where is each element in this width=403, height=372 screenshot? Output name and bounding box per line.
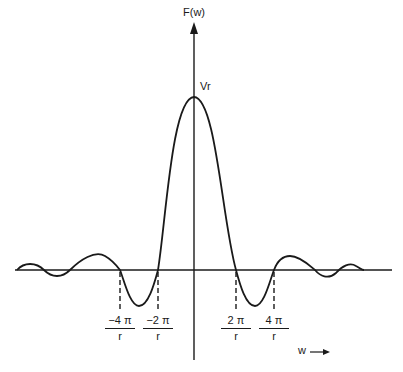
y-axis-label: F(w) xyxy=(183,6,205,18)
sinc-plot xyxy=(0,0,403,372)
sinc-curve xyxy=(17,97,364,306)
tick-label-4pi: 4 π r xyxy=(259,314,289,343)
arrow-up-icon xyxy=(190,22,198,34)
tick-label-neg4pi: −4 π r xyxy=(105,314,135,343)
x-axis-label: w xyxy=(298,344,306,356)
tick-label-neg2pi: −2 π r xyxy=(143,314,173,343)
peak-label: Vr xyxy=(200,80,211,92)
arrow-right-icon xyxy=(323,349,330,355)
tick-label-2pi: 2 π r xyxy=(221,314,251,343)
